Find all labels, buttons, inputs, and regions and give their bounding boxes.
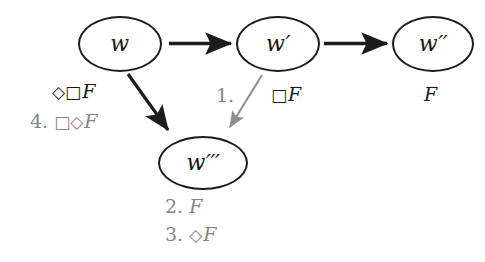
edge-w-to-wtripleprime xyxy=(128,74,168,130)
annotation-w-double-prime-f: F xyxy=(424,85,437,104)
annotation-step-1: 1. xyxy=(216,86,234,105)
node-w-label: w xyxy=(110,33,129,55)
node-w-prime[interactable]: w′ xyxy=(236,16,320,72)
annotation-w-triple-prime-step-2: 2. F xyxy=(165,197,202,216)
edge-wprime-to-wtripleprime xyxy=(230,75,262,127)
annotation-w-triple-prime-step-3: 3. ◇F xyxy=(165,225,216,244)
node-w-triple-prime-label: w′′′ xyxy=(187,152,220,174)
annotation-w-step-4: 4. □◇F xyxy=(30,112,98,131)
node-w-double-prime[interactable]: w′′ xyxy=(392,16,474,72)
node-w[interactable]: w xyxy=(78,16,162,72)
annotation-w-diamond-box-f: ◇□F xyxy=(52,82,95,101)
diagram-canvas: w w′ w′′ w′′′ ◇□F 4. □◇F 1. □F F 2. F 3.… xyxy=(0,0,485,262)
node-w-triple-prime[interactable]: w′′′ xyxy=(158,136,248,190)
annotation-w-prime-box-f: □F xyxy=(271,85,301,104)
node-w-double-prime-label: w′′ xyxy=(419,33,447,55)
node-w-prime-label: w′ xyxy=(266,33,290,55)
